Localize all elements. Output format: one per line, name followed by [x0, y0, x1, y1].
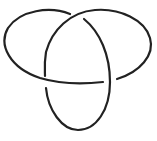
- knot-strand-left-lobe: [5, 10, 103, 83]
- trefoil-knot-diagram: [0, 0, 157, 141]
- knot-strand-bottom-lobe: [46, 19, 110, 130]
- knot-strand-right-lobe: [45, 10, 151, 79]
- trefoil-knot-svg: [0, 0, 157, 141]
